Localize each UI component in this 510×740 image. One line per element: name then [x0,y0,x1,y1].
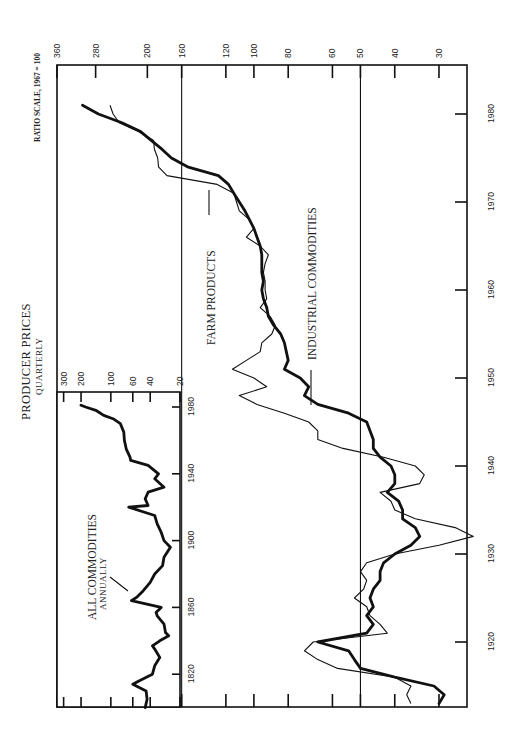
inset-ratio-tick-label: 200 [76,372,86,386]
year-tick-label: 1920 [486,632,496,651]
chart-title: PRODUCER PRICES [19,303,33,420]
chart-subtitle: QUARTERLY [34,337,44,395]
ratio-tick-label: 60 [327,48,337,58]
ratio-tick-label: 360 [52,44,62,58]
year-tick-label: 1940 [486,456,496,475]
inset-background [57,392,180,707]
ratio-tick-label: 200 [142,44,152,58]
industrial-commodities-label: INDUSTRIAL COMMODITIES [306,207,318,360]
inset-ratio-tick-label: 300 [59,372,69,386]
inset-year-tick-label: 1820 [186,664,196,683]
ratio-tick-label: 120 [221,44,231,58]
year-tick-label: 1970 [486,192,496,211]
year-tick-label: 1960 [486,280,496,299]
inset-ratio-tick-label: 20 [175,376,185,386]
ratio-tick-label: 50 [355,48,365,58]
all-commodities-sublabel: ANNUALLY [98,557,108,610]
inset-ratio-tick-label: 60 [128,376,138,386]
farm-products-label: FARM PRODUCTS [205,250,217,345]
chart-title-group: PRODUCER PRICES QUARTERLY [19,303,44,420]
producer-prices-chart: PRODUCER PRICES QUARTERLY RATIO SCALE, 1… [0,0,510,740]
ratio-tick-label: 40 [390,48,400,58]
inset-ratio-tick-label: 100 [106,372,116,386]
inset-year-tick-label: 1860 [186,597,196,616]
inset-year-tick-label: 1900 [186,530,196,549]
inset-year-tick-label: 1980 [186,397,196,416]
ratio-tick-label: 30 [434,48,444,58]
ratio-tick-label: 80 [283,48,293,58]
year-tick-label: 1950 [486,368,496,387]
ratio-tick-label: 280 [91,44,101,58]
year-tick-label: 1980 [486,104,496,123]
all-commodities-label: ALL COMMODITIES [86,514,98,620]
ratio-scale-note: RATIO SCALE, 1967 = 100 [33,53,42,142]
year-tick-label: 1930 [486,544,496,563]
ratio-tick-label: 100 [249,44,259,58]
inset-year-tick-label: 1940 [186,464,196,483]
inset-ratio-tick-label: 40 [145,376,155,386]
ratio-tick-label: 160 [177,44,187,58]
